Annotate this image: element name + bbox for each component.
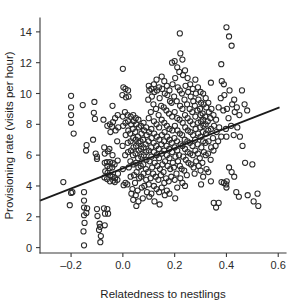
data-point — [245, 108, 250, 113]
axes — [40, 18, 286, 253]
data-point — [115, 139, 120, 144]
data-point — [175, 185, 180, 190]
data-point — [132, 180, 137, 185]
x-tick-label: 0.0 — [115, 259, 130, 271]
data-point — [61, 180, 66, 185]
data-point — [98, 240, 103, 245]
y-tick-label: 0 — [26, 242, 32, 254]
data-point — [101, 117, 106, 122]
data-point — [68, 112, 73, 117]
data-point — [234, 105, 239, 110]
data-point-markers — [61, 25, 261, 248]
data-point — [80, 102, 85, 107]
data-point — [184, 173, 189, 178]
data-point — [219, 134, 224, 139]
data-point — [217, 125, 222, 130]
data-point — [92, 116, 97, 121]
data-point — [140, 196, 145, 201]
data-point — [154, 77, 159, 82]
data-point — [237, 112, 242, 117]
data-point — [236, 194, 241, 199]
data-point — [91, 110, 96, 115]
data-point — [115, 158, 120, 163]
y-tick-label: 6 — [26, 149, 32, 161]
data-point — [256, 203, 261, 208]
data-point — [157, 96, 162, 101]
data-point — [198, 182, 203, 187]
data-point — [201, 174, 206, 179]
data-point — [251, 199, 256, 204]
data-point — [231, 133, 236, 138]
data-point — [240, 143, 245, 148]
data-point — [185, 76, 190, 81]
y-tick-label: 2 — [26, 211, 32, 223]
scatter-plot-figure: –0.20.00.20.40.6 02468101214 Relatedness… — [0, 0, 289, 302]
data-point — [172, 177, 177, 182]
data-point — [102, 223, 107, 228]
data-point — [211, 123, 216, 128]
data-point — [92, 99, 97, 104]
data-point — [67, 203, 72, 208]
data-point — [192, 171, 197, 176]
y-axis-tick-labels: 02468101214 — [20, 26, 32, 254]
data-point — [232, 97, 237, 102]
data-point — [242, 102, 247, 107]
data-point — [98, 233, 103, 238]
data-point — [198, 168, 203, 173]
data-point — [81, 229, 86, 234]
x-tick-label: –0.2 — [60, 259, 81, 271]
axis-ticks — [36, 32, 278, 257]
data-point — [157, 202, 162, 207]
data-point — [95, 213, 100, 218]
data-point — [167, 88, 172, 93]
data-point — [170, 82, 175, 87]
data-point — [235, 125, 240, 130]
data-point — [110, 153, 115, 158]
data-point — [174, 99, 179, 104]
data-point — [146, 116, 151, 121]
data-point — [210, 136, 215, 141]
data-point — [81, 190, 86, 195]
data-point — [226, 116, 231, 121]
y-axis-title: Provisioning rate (visits per hour) — [3, 51, 15, 219]
x-axis-title: Relatedness to nestlings — [100, 288, 226, 300]
data-point — [173, 196, 178, 201]
x-tick-label: 0.2 — [167, 259, 182, 271]
data-point — [90, 137, 95, 142]
data-point — [94, 206, 99, 211]
data-point — [200, 160, 205, 165]
data-point — [206, 100, 211, 105]
data-point — [173, 76, 178, 81]
data-point — [232, 174, 237, 179]
data-point — [255, 191, 260, 196]
data-point — [120, 66, 125, 71]
data-point — [169, 174, 174, 179]
data-point — [219, 62, 224, 67]
data-point — [193, 114, 198, 119]
data-point — [110, 103, 115, 108]
data-point — [96, 227, 101, 232]
data-point — [237, 134, 242, 139]
data-point — [213, 117, 218, 122]
data-point — [224, 25, 229, 30]
data-point — [227, 88, 232, 93]
y-tick-label: 12 — [20, 57, 32, 69]
data-point — [182, 68, 187, 73]
data-point — [108, 129, 113, 134]
data-point — [208, 80, 213, 85]
y-tick-label: 4 — [26, 180, 32, 192]
data-point — [81, 243, 86, 248]
data-point — [245, 193, 250, 198]
data-point — [193, 77, 198, 82]
data-point — [178, 51, 183, 56]
data-point — [120, 143, 125, 148]
data-point — [68, 120, 73, 125]
data-point — [152, 199, 157, 204]
data-point — [242, 160, 247, 165]
x-tick-label: 0.6 — [271, 259, 286, 271]
data-point — [84, 143, 89, 148]
data-point — [208, 179, 213, 184]
data-point — [71, 131, 76, 136]
data-point — [229, 43, 234, 48]
data-point — [83, 148, 88, 153]
